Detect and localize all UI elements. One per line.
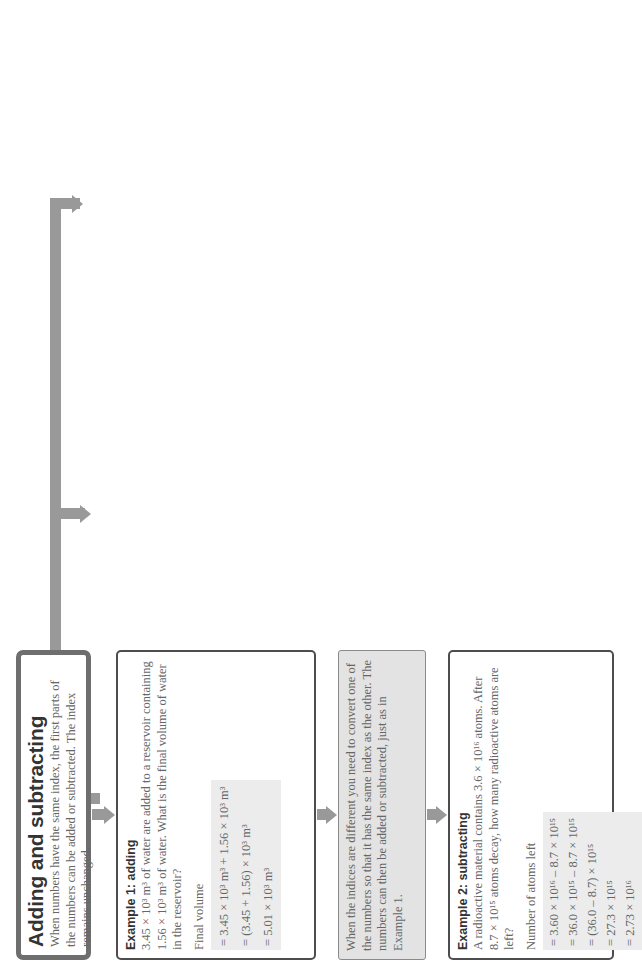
adding-example2-label: Number of atoms left (524, 660, 540, 950)
adding-example2-title: Example 2: subtracting (456, 660, 471, 950)
adding-example1-label: Final volume (192, 660, 208, 950)
arrow-down-icon (326, 806, 337, 824)
arrow-down-icon (104, 806, 115, 824)
arrow-down-icon (436, 806, 447, 824)
adding-example2-question: A radioactive material contains 3.6 × 10… (471, 660, 518, 950)
adding-example2-panel: Example 2: subtracting A radioactive mat… (448, 650, 614, 960)
adding-example1-calculation: = 3.45 × 10³ m³ + 1.56 × 10³ m³ = (3.45 … (211, 780, 281, 950)
adding-example1-panel: Example 1: adding 3.45 × 10³ m³ of water… (116, 650, 316, 960)
adding-example2-calculation: = 3.60 × 10¹⁶ – 8.7 × 10¹⁵ = 36.0 × 10¹⁵… (543, 812, 642, 950)
adding-example1-title: Example 1: adding (124, 660, 139, 950)
arrow-down-icon (72, 195, 83, 213)
adding-note-text: When the indices are different you need … (344, 659, 406, 951)
adding-heading-panel: Adding and subtracting When numbers have… (16, 650, 91, 960)
arrow-down-icon (80, 505, 91, 523)
adding-title: Adding and subtracting (25, 663, 47, 947)
adding-intro: When numbers have the same index, the fi… (48, 663, 95, 947)
adding-example1-question: 3.45 × 10³ m³ of water are added to a re… (139, 660, 186, 950)
adding-note-panel: When the indices are different you need … (338, 650, 426, 960)
